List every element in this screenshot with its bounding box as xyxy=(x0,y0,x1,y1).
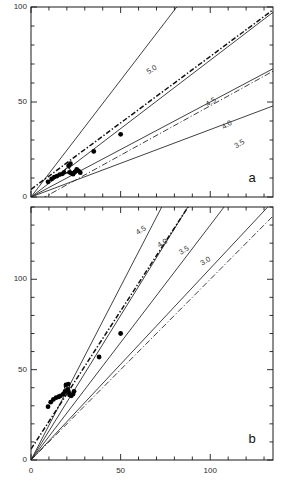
x-tick-label: 0 xyxy=(29,466,34,475)
model-line-3.5 xyxy=(31,104,278,197)
panel-a-datapoints xyxy=(46,132,123,184)
data-point xyxy=(66,382,71,387)
panel-a-curve-labels: 5.04.54.03.5 xyxy=(145,63,246,150)
y-tick-label: 0 xyxy=(23,455,28,464)
best-fit-line xyxy=(31,6,278,189)
panel-a: 050100 5.04.54.03.5 a xyxy=(0,0,291,200)
panel-b-plot: 050100 050100 4.54.03.53.0 b xyxy=(0,200,291,489)
y-tick-label: 50 xyxy=(18,97,27,106)
x-tick-label: 100 xyxy=(204,466,218,475)
panel-b-y-ticklabels: 050100 xyxy=(14,274,28,464)
panel-b: 050100 050100 4.54.03.53.0 b xyxy=(0,200,291,489)
model-line-4.0 xyxy=(31,66,278,197)
curve-label-4.5: 4.5 xyxy=(204,95,218,108)
data-point xyxy=(118,331,123,336)
x-tick-label: 50 xyxy=(116,466,125,475)
panel-b-frame xyxy=(31,207,273,460)
data-point xyxy=(78,170,83,175)
curve-label-3.0: 3.0 xyxy=(199,254,213,267)
y-tick-label: 100 xyxy=(14,2,28,11)
curve-label-4.5: 4.5 xyxy=(134,224,148,237)
data-point xyxy=(118,132,123,137)
panel-b-datapoints xyxy=(46,331,123,409)
data-point xyxy=(97,355,102,360)
model-line-3.0 xyxy=(31,196,278,460)
data-point xyxy=(72,389,77,394)
panel-a-tag: a xyxy=(248,170,256,185)
figure-container: 050100 5.04.54.03.5 a 050100 050100 4.54… xyxy=(0,0,291,489)
y-tick-label: 50 xyxy=(18,365,27,374)
curve-label-4.0: 4.0 xyxy=(220,118,234,131)
panel-b-tag: b xyxy=(248,431,255,446)
panel-b-ticks xyxy=(31,207,273,460)
panel-b-x-ticklabels: 050100 xyxy=(29,466,218,475)
y-tick-label: 100 xyxy=(14,274,28,283)
reference-line-unity xyxy=(31,211,278,460)
data-point xyxy=(68,161,73,166)
panel-a-plot: 050100 5.04.54.03.5 a xyxy=(0,0,291,200)
data-point xyxy=(91,149,96,154)
curve-label-5.0: 5.0 xyxy=(145,63,159,76)
panel-a-y-ticklabels: 050100 xyxy=(14,2,28,201)
curve-label-3.5: 3.5 xyxy=(177,243,191,256)
curve-label-3.5: 3.5 xyxy=(233,137,247,150)
data-point xyxy=(46,404,51,409)
